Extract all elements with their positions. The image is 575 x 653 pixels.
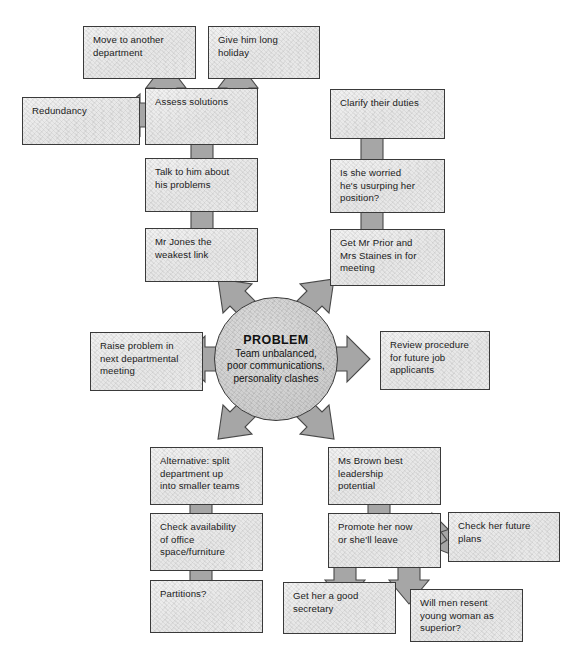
node-label: Assess solutions (155, 96, 248, 109)
node-label: Alternative: split department up into sm… (160, 455, 253, 493)
problem-title: PROBLEM (243, 333, 308, 347)
node-label: Get Mr Prior and Mrs Staines in for meet… (340, 237, 435, 275)
node-check-her-future-plans[interactable]: Check her future plans (448, 512, 560, 562)
node-is-she-worried[interactable]: Is she worried he's usurping her positio… (330, 159, 445, 213)
node-raise-problem-in-next-departmental-meeting[interactable]: Raise problem in next departmental meeti… (90, 332, 203, 391)
node-ms-brown-best-leadership-potential[interactable]: Ms Brown best leadership potential (328, 447, 441, 505)
node-mr-jones-the-weakest-link[interactable]: Mr Jones the weakest link (145, 228, 258, 282)
node-label: Raise problem in next departmental meeti… (100, 340, 193, 378)
node-give-him-long-holiday[interactable]: Give him long holiday (208, 26, 320, 79)
node-move-to-another-department[interactable]: Move to another department (83, 26, 196, 79)
node-review-procedure-for-future-job-applicants[interactable]: Review procedure for future job applican… (380, 331, 490, 390)
node-get-her-a-good-secretary[interactable]: Get her a good secretary (283, 582, 396, 634)
node-label: Promote her now or she'll leave (338, 521, 431, 546)
node-redundancy[interactable]: Redundancy (22, 97, 140, 145)
node-label: Check availability of office space/furni… (160, 521, 253, 559)
node-label: Redundancy (32, 105, 130, 118)
node-clarify-their-duties[interactable]: Clarify their duties (330, 89, 445, 139)
node-label: Review procedure for future job applican… (390, 339, 480, 377)
node-label: Check her future plans (458, 520, 550, 545)
diagram-canvas: Move to another department Give him long… (0, 0, 575, 653)
problem-body: Team unbalanced, poor communications, pe… (227, 348, 325, 386)
node-get-mr-prior-and-mrs-staines[interactable]: Get Mr Prior and Mrs Staines in for meet… (330, 229, 445, 286)
node-label: Will men resent young woman as superior? (420, 597, 513, 635)
node-alternative-split-department-up[interactable]: Alternative: split department up into sm… (150, 447, 263, 505)
node-assess-solutions[interactable]: Assess solutions (145, 88, 258, 145)
node-label: Is she worried he's usurping her positio… (340, 167, 435, 205)
problem-circle[interactable]: PROBLEM Team unbalanced, poor communicat… (214, 297, 338, 421)
node-label: Partitions? (160, 588, 253, 601)
node-label: Move to another department (93, 34, 186, 59)
node-label: Mr Jones the weakest link (155, 236, 248, 261)
node-label: Talk to him about his problems (155, 166, 248, 191)
node-partitions[interactable]: Partitions? (150, 580, 263, 633)
node-label: Get her a good secretary (293, 590, 386, 615)
node-label: Clarify their duties (340, 97, 435, 110)
node-will-men-resent-young-woman[interactable]: Will men resent young woman as superior? (410, 589, 523, 642)
node-promote-her-now-or-shell-leave[interactable]: Promote her now or she'll leave (328, 513, 441, 568)
node-label: Give him long holiday (218, 34, 310, 59)
node-check-availability-of-office-space[interactable]: Check availability of office space/furni… (150, 513, 263, 571)
node-label: Ms Brown best leadership potential (338, 455, 431, 493)
node-talk-to-him-about-his-problems[interactable]: Talk to him about his problems (145, 158, 258, 212)
